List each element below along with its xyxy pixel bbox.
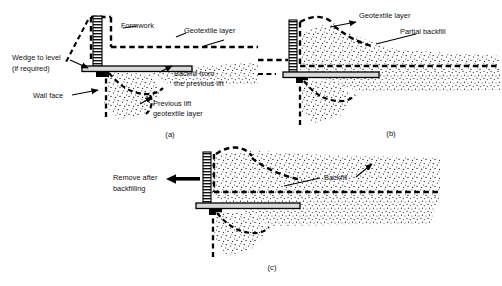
- panel-a-label-wedge-line1: Wedge to level: [12, 53, 61, 62]
- panel-c-label-remove-line2: backfilling: [113, 184, 145, 193]
- panel-c-label-backfill: Backfill: [324, 173, 348, 182]
- panel-a-label-prev-geotextile-line1: Previous lift: [153, 99, 191, 108]
- panel-a-label-wedge-line2: (if required): [12, 64, 50, 73]
- panel-a-label-backfill-line2: the previous lift: [174, 79, 224, 88]
- panel-c-id: (c): [268, 263, 277, 272]
- panel-a-label-wall-face: Wall face: [33, 91, 63, 100]
- panel-b-label-partial-backfill: Partial backfill: [400, 27, 446, 36]
- panel-a-wedge: [96, 72, 109, 77]
- panel-b-label-geotextile-layer: Geotextile layer: [359, 11, 411, 20]
- panel-c-formwork-panel: [203, 152, 211, 204]
- panel-b-formwork-panel: [289, 20, 297, 72]
- panel-a-label-prev-geotextile-line2: geotextile layer: [153, 109, 203, 118]
- panel-b-base-plate: [283, 72, 379, 78]
- panel-a-formwork-panel: [93, 16, 102, 66]
- panel-b-id: (b): [386, 129, 396, 138]
- panel-c-base-plate: [196, 203, 300, 209]
- panel-a-label-geotextile-layer: Geotextile layer: [184, 26, 236, 35]
- panel-a-label-backfill-line1: Backfill from: [174, 69, 214, 78]
- panel-c-label-remove-line1: Remove after: [113, 173, 158, 182]
- wall-construction-diagram: Formwork Geotextile layer Wedge to level…: [0, 0, 502, 286]
- figure-container: Formwork Geotextile layer Wedge to level…: [0, 0, 502, 286]
- panel-a-label-formwork: Formwork: [121, 21, 154, 30]
- panel-a-id: (a): [165, 130, 175, 139]
